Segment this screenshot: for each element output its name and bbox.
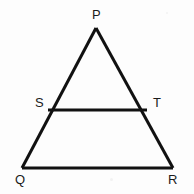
segment-pq <box>22 28 96 168</box>
vertex-label-r: R <box>168 173 177 186</box>
segment-pr <box>96 28 173 168</box>
vertex-label-p: P <box>92 8 101 21</box>
vertex-label-t: T <box>153 96 161 109</box>
vertex-label-q: Q <box>15 173 25 186</box>
vertex-label-s: S <box>35 96 44 109</box>
triangle-diagram-canvas <box>0 0 194 194</box>
geometry-figure: P Q R S T <box>0 0 194 194</box>
